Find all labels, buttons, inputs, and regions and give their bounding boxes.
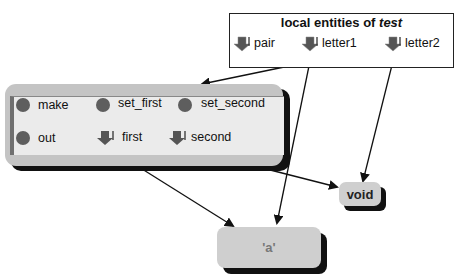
field-first[interactable]: first [122,130,142,144]
char-a-label: 'a' [262,240,275,255]
second-variable-icon [169,131,185,145]
void-box[interactable]: void [339,182,381,206]
void-label: void [347,187,374,202]
char-a-box[interactable]: 'a' [217,227,321,268]
field-second[interactable]: second [191,130,231,144]
first-variable-icon [97,131,113,145]
